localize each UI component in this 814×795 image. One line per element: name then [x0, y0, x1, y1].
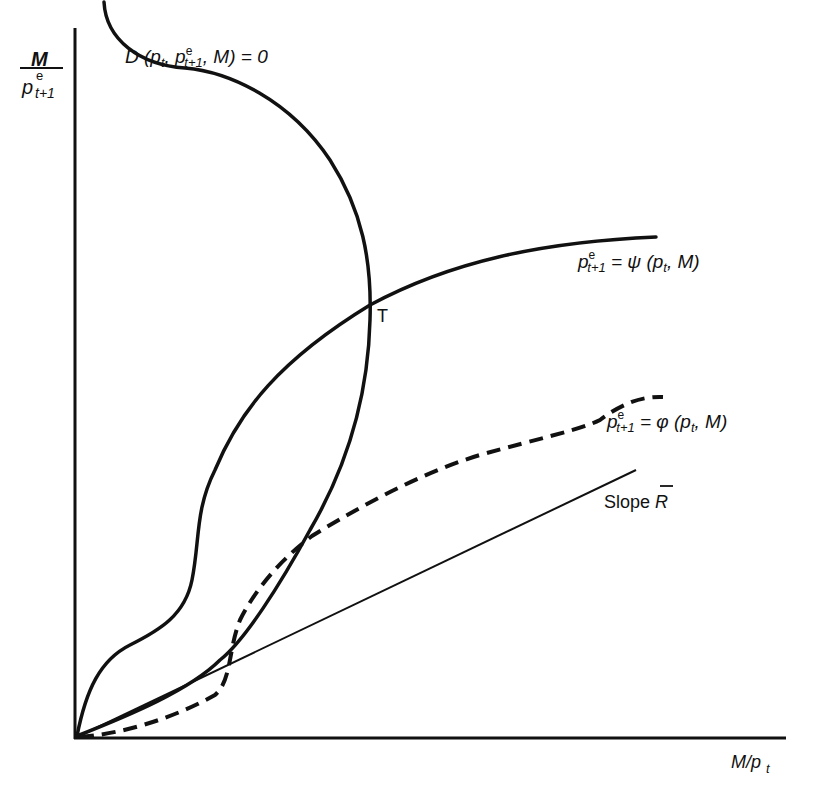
psi-label: pet+1 = ψ (pt, M) — [577, 248, 700, 275]
svg-text:pet+1 = ψ (pt, M): pet+1 = ψ (pt, M) — [577, 248, 700, 275]
svg-text:pet+1 = φ (pt, M): pet+1 = φ (pt, M) — [606, 408, 727, 435]
demand-label: D (pt, pet+1, M) = 0 — [125, 44, 268, 70]
x-label-sub: t — [766, 761, 771, 776]
svg-text:Slope R: Slope R — [604, 492, 668, 512]
slope-label: Slope R — [604, 486, 673, 512]
diagram-canvas: M p e t+1 M/p t D (pt, pet+1, M) = 0 pet… — [0, 0, 814, 795]
svg-text:D (pt, pet+1, M) = 0: D (pt, pet+1, M) = 0 — [125, 44, 268, 70]
y-label-sup: e — [36, 68, 43, 83]
y-axis-label: M p e t+1 — [20, 48, 63, 101]
y-label-denominator: p — [21, 76, 33, 98]
point-t-label: T — [377, 306, 388, 326]
demand-curve — [77, 2, 370, 736]
psi-curve — [77, 237, 656, 736]
y-label-numerator: M — [31, 48, 49, 70]
phi-label: pet+1 = φ (pt, M) — [606, 408, 727, 435]
x-label-main: M/p — [731, 752, 761, 772]
x-axis-label: M/p t — [731, 752, 771, 776]
phi-curve — [80, 397, 663, 737]
y-label-sub: t+1 — [35, 85, 55, 101]
